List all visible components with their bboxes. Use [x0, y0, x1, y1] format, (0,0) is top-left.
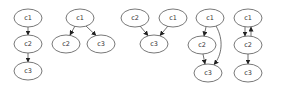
node-label: c1	[76, 14, 84, 22]
node-label: c1	[206, 14, 214, 22]
edge-c1-c3	[160, 26, 168, 36]
node-c1-top[interactable]: c1	[159, 9, 187, 27]
node-c3[interactable]: c3	[87, 35, 115, 53]
node-c1[interactable]: c1	[196, 9, 224, 27]
node-label: c3	[97, 40, 105, 48]
edge-c1-c3	[86, 26, 96, 36]
node-c2[interactable]: c2	[234, 36, 262, 54]
node-label: c2	[198, 41, 206, 49]
node-c2[interactable]: c2	[52, 35, 80, 53]
node-label: c3	[24, 67, 32, 75]
graph-5: c1 c2 c3	[234, 9, 262, 82]
node-label: c2	[62, 40, 70, 48]
edge-c2-c3	[203, 54, 205, 64]
node-c3[interactable]: c3	[194, 64, 222, 82]
node-c2-top[interactable]: c2	[121, 9, 149, 27]
node-c2[interactable]: c2	[14, 35, 42, 53]
node-label: c3	[244, 69, 252, 77]
edge-c2-c3	[140, 26, 148, 36]
edge-c1-c2	[70, 26, 75, 35]
node-c1[interactable]: c1	[66, 9, 94, 27]
graph-3: c2 c1 c3	[121, 9, 187, 53]
graph-4: c1 c2 c3	[188, 9, 224, 82]
node-c3[interactable]: c3	[140, 35, 168, 53]
node-label: c2	[131, 14, 139, 22]
node-c2[interactable]: c2	[188, 36, 216, 54]
node-label: c1	[169, 14, 177, 22]
graph-2: c1 c2 c3	[52, 9, 115, 53]
node-c3[interactable]: c3	[14, 62, 42, 80]
graph-1: c1 c2 c3	[14, 9, 42, 80]
diagram-canvas: c1 c2 c3 c1 c2 c3 c2	[0, 0, 281, 92]
node-c1[interactable]: c1	[14, 9, 42, 27]
node-label: c3	[150, 40, 158, 48]
node-c1[interactable]: c1	[234, 9, 262, 27]
node-c3[interactable]: c3	[234, 64, 262, 82]
edge-c1-c2	[204, 27, 206, 36]
node-label: c1	[244, 14, 252, 22]
node-label: c3	[204, 69, 212, 77]
node-label: c1	[24, 14, 32, 22]
node-label: c2	[24, 40, 32, 48]
node-label: c2	[244, 41, 252, 49]
